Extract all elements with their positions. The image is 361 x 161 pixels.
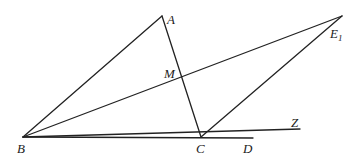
label-A: A: [166, 12, 175, 27]
label-E1-main: E: [329, 26, 338, 41]
segment-E1C: [201, 16, 342, 137]
label-C: C: [196, 141, 205, 156]
label-Z: Z: [291, 115, 299, 130]
segment-BA: [23, 16, 162, 137]
geometry-diagram: A M E1 B C D Z: [0, 0, 361, 161]
label-B: B: [17, 141, 25, 156]
label-E1-subscript: 1: [338, 33, 343, 43]
segment-BD: [23, 137, 253, 138]
label-D: D: [242, 141, 253, 156]
segment-BZ: [23, 129, 300, 137]
diagram-svg: A M E1 B C D Z: [0, 0, 361, 161]
label-M: M: [163, 66, 176, 81]
label-E1: E1: [329, 26, 342, 43]
